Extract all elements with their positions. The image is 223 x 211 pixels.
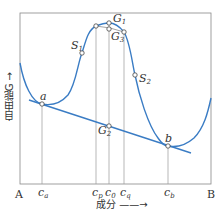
label-cb: cb bbox=[164, 187, 175, 200]
x-axis-label: 成分 ——→ bbox=[96, 196, 148, 211]
label-a: a bbox=[40, 91, 47, 102]
label-s1: S1 bbox=[71, 40, 83, 53]
point-p bbox=[94, 24, 98, 28]
label-g1: G1 bbox=[113, 13, 126, 26]
label-s2: S2 bbox=[139, 73, 151, 86]
label-g3-main: G bbox=[111, 30, 120, 43]
point-s2 bbox=[133, 73, 137, 77]
label-s1-main: S bbox=[71, 39, 79, 52]
y-axis-label: 自由能G → bbox=[2, 72, 16, 121]
label-s2-main: S bbox=[139, 72, 147, 85]
label-ca-sub: a bbox=[44, 192, 48, 200]
label-cb-sub: b bbox=[170, 192, 174, 200]
y-axis-label-text: 自由能G bbox=[4, 84, 15, 122]
label-g1-main: G bbox=[113, 12, 122, 25]
label-g2-sub: 2 bbox=[107, 130, 111, 138]
label-g1-sub: 1 bbox=[122, 18, 126, 26]
label-g2-main: G bbox=[98, 124, 107, 137]
label-s1-sub: 1 bbox=[79, 45, 83, 53]
label-g3: G3 bbox=[111, 31, 124, 44]
label-g2: G2 bbox=[98, 125, 111, 138]
label-b: b bbox=[165, 133, 172, 144]
label-endpoint-b: B bbox=[207, 189, 215, 200]
label-endpoint-a: A bbox=[15, 189, 23, 200]
x-axis-label-text: 成分 bbox=[96, 199, 116, 210]
label-g3-sub: 3 bbox=[120, 36, 124, 44]
free-energy-diagram: a b S1 S2 G1 G3 G2 A B ca cp c0 cq cb 自由… bbox=[0, 0, 223, 211]
point-g1 bbox=[107, 21, 111, 25]
label-ca: ca bbox=[38, 187, 48, 200]
label-s2-sub: 2 bbox=[147, 78, 151, 86]
